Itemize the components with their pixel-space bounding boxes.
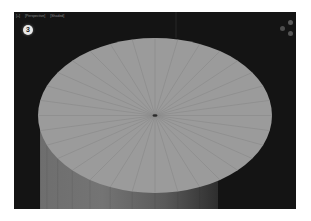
viewport-menu-label[interactable]: [+] — [16, 13, 20, 20]
viewport-view-label[interactable]: [Perspective] — [25, 13, 45, 20]
cylinder-top-face — [38, 38, 272, 193]
scene-canvas[interactable] — [14, 12, 296, 209]
orbit-icon[interactable] — [288, 20, 293, 25]
center-vertex — [153, 114, 158, 117]
3d-viewport[interactable]: [+] [Perspective] [Shaded] 3 — [14, 12, 296, 209]
viewport-header: [+] [Perspective] [Shaded] — [16, 13, 64, 20]
step-number-badge: 3 — [23, 25, 33, 35]
view-cube-icon[interactable] — [280, 26, 285, 31]
viewport-shading-label[interactable]: [Shaded] — [50, 13, 64, 20]
zoom-icon[interactable] — [288, 31, 293, 36]
